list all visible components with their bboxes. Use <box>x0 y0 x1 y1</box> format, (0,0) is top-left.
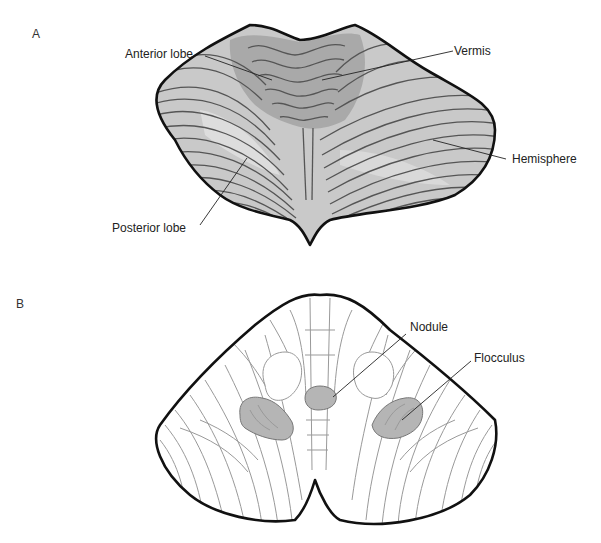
peduncle-right <box>354 352 394 398</box>
label-hemisphere: Hemisphere <box>512 152 577 166</box>
label-posterior-lobe: Posterior lobe <box>112 221 186 235</box>
cerebellum-superior-view <box>150 25 500 245</box>
nodule <box>305 386 336 410</box>
label-anterior-lobe: Anterior lobe <box>125 47 193 61</box>
cerebellum-diagram: A <box>0 0 601 543</box>
panel-label-b: B <box>16 297 24 311</box>
label-flocculus: Flocculus <box>474 351 525 365</box>
panel-label-a: A <box>32 27 40 41</box>
label-vermis: Vermis <box>454 44 491 58</box>
label-nodule: Nodule <box>410 320 448 334</box>
